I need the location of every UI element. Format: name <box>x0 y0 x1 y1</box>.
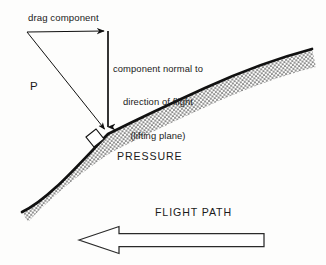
normal-component-label: component normal to direction of flight … <box>113 41 203 163</box>
pressure-force-vector <box>27 32 105 129</box>
normal-component-line-2: direction of flight <box>113 96 203 107</box>
aerodynamics-diagram: drag component component normal to direc… <box>0 0 326 265</box>
flight-path-arrow <box>79 227 264 254</box>
drag-component-label: drag component <box>28 12 99 23</box>
normal-component-line-3: (lifting plane) <box>113 130 203 141</box>
resultant-force-label: P <box>30 80 38 94</box>
drag-component-vector <box>27 31 104 32</box>
normal-component-line-1: component normal to <box>113 63 203 74</box>
pressure-label: PRESSURE <box>117 150 182 163</box>
flight-path-label: FLIGHT PATH <box>155 206 232 219</box>
